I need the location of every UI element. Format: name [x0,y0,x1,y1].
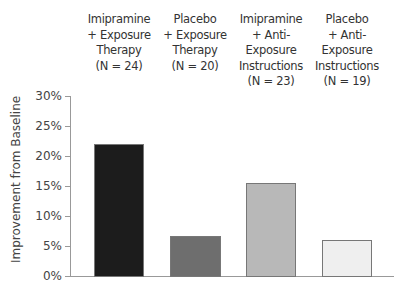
y-axis [70,96,71,276]
label-line: Exposure [233,43,309,59]
label-line: + Anti- [233,28,309,44]
y-tick-label: 15% [18,180,62,192]
label-line: + Exposure [81,28,157,44]
label-line: Therapy [157,43,233,59]
label-line: Instructions [233,59,309,75]
y-tick-label: 5% [18,240,62,252]
category-label-4: Placebo + Anti- Exposure Instructions (N… [309,12,385,90]
label-line: Imipramine [81,12,157,28]
y-tick [65,96,70,97]
y-tick [65,216,70,217]
y-tick [65,246,70,247]
bar-placebo-exposure [170,236,221,277]
label-line: (N = 24) [81,59,157,75]
label-line: (N = 23) [233,74,309,90]
y-tick-label: 25% [18,120,62,132]
label-line: Imipramine [233,12,309,28]
y-tick [65,276,70,277]
label-line: Placebo [309,12,385,28]
y-tick [65,186,70,187]
y-tick-label: 30% [18,90,62,102]
bar-imipramine-exposure [94,144,144,277]
category-label-1: Imipramine + Exposure Therapy (N = 24) [81,12,157,74]
label-line: (N = 19) [309,74,385,90]
y-tick-label: 20% [18,150,62,162]
y-tick [65,156,70,157]
label-line: Therapy [81,43,157,59]
category-label-2: Placebo + Exposure Therapy (N = 20) [157,12,233,74]
label-line: Placebo [157,12,233,28]
label-line: + Anti- [309,28,385,44]
label-line: Instructions [309,59,385,75]
label-line: + Exposure [157,28,233,44]
category-label-3: Imipramine + Anti- Exposure Instructions… [233,12,309,90]
y-tick-label: 10% [18,210,62,222]
label-line: Exposure [309,43,385,59]
bar-imipramine-anti-exposure [246,183,296,277]
bar-placebo-anti-exposure [322,240,372,277]
label-line: (N = 20) [157,59,233,75]
y-tick-label: 0% [18,270,62,282]
y-tick [65,126,70,127]
